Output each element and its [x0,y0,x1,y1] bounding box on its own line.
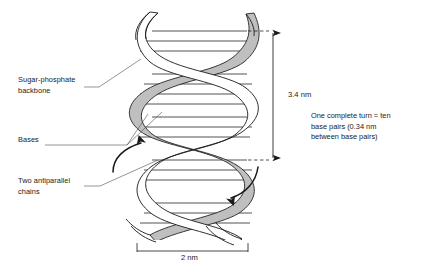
label-two-antiparallel-chains: Two antiparallel chains [18,176,70,197]
annotation-turn-note: One complete turn = ten base pairs (0.34… [311,111,391,143]
dna-helix-diagram: Sugar-phosphate backbone Bases Two antip… [0,0,427,275]
arrow-up-5prime-3prime [113,143,141,172]
label-sugar-phosphate-backbone: Sugar-phosphate backbone [18,75,75,96]
label-height-dimension: 3.4 nm [288,90,311,99]
label-bases: Bases [18,135,39,146]
label-width-dimension: 2 nm [181,253,198,262]
